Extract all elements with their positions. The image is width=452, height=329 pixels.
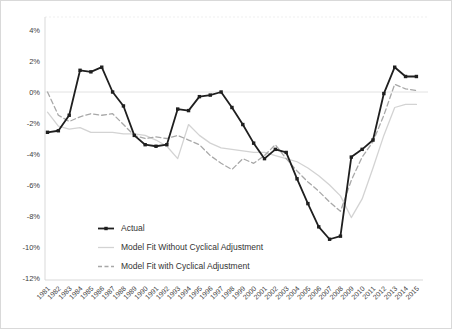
chart-legend: Actual Model Fit Without Cyclical Adjust…	[98, 219, 263, 276]
data-point-marker	[219, 90, 222, 93]
data-point-marker	[176, 107, 179, 110]
data-point-marker	[263, 157, 266, 160]
actual-line-sample	[98, 224, 114, 233]
data-point-marker	[328, 238, 331, 241]
data-point-marker	[404, 75, 407, 78]
legend-sample-marker	[104, 227, 107, 230]
data-point-marker	[154, 145, 157, 148]
series-line-0	[48, 67, 417, 239]
data-point-marker	[89, 70, 92, 73]
data-point-marker	[230, 106, 233, 109]
data-point-marker	[285, 151, 288, 154]
data-point-marker	[371, 138, 374, 141]
y-tick-label: -8%	[27, 212, 41, 221]
legend-item-model-with-adjustment: Model Fit with Cyclical Adjustment	[98, 257, 263, 276]
y-axis-labels: 4%2%0%-2%-4%-6%-8%-10%-12%	[22, 26, 40, 283]
legend-label-model-without-adjustment: Model Fit Without Cyclical Adjustment	[121, 243, 263, 252]
legend-item-model-without-adjustment: Model Fit Without Cyclical Adjustment	[98, 238, 263, 257]
data-point-marker	[143, 143, 146, 146]
data-point-marker	[68, 114, 71, 117]
legend-item-actual: Actual	[98, 219, 263, 238]
data-point-marker	[382, 92, 385, 95]
data-point-marker	[393, 66, 396, 69]
data-point-marker	[360, 148, 363, 151]
y-tick-label: -4%	[27, 150, 41, 159]
data-point-marker	[133, 134, 136, 137]
data-point-marker	[317, 225, 320, 228]
data-point-marker	[46, 131, 49, 134]
data-point-marker	[111, 90, 114, 93]
x-axis-labels: 1981198219831984198519861987198819891990…	[35, 285, 420, 301]
y-tick-label: 0%	[29, 88, 40, 97]
data-point-marker	[187, 109, 190, 112]
data-point-marker	[209, 93, 212, 96]
legend-label-actual: Actual	[121, 224, 145, 233]
data-point-marker	[100, 66, 103, 69]
data-point-marker	[165, 143, 168, 146]
y-tick-label: 4%	[29, 26, 40, 35]
line-chart-canvas: 4%2%0%-2%-4%-6%-8%-10%-12%19811982198319…	[1, 1, 451, 328]
data-point-marker	[122, 104, 125, 107]
y-tick-label: 2%	[29, 57, 40, 66]
data-point-marker	[415, 75, 418, 78]
y-tick-label: -6%	[27, 181, 41, 190]
data-point-marker	[57, 129, 60, 132]
model-with-adjustment-line-sample	[98, 262, 114, 271]
data-point-marker	[241, 123, 244, 126]
y-tick-label: -10%	[22, 243, 40, 252]
legend-label-model-with-adjustment: Model Fit with Cyclical Adjustment	[121, 262, 250, 271]
data-point-marker	[339, 234, 342, 237]
y-tick-label: -12%	[22, 274, 40, 283]
y-tick-label: -2%	[27, 119, 41, 128]
data-point-marker	[78, 69, 81, 72]
data-point-marker	[274, 148, 277, 151]
data-point-marker	[295, 177, 298, 180]
data-point-marker	[306, 202, 309, 205]
data-point-marker	[198, 95, 201, 98]
line-chart-frame: 4%2%0%-2%-4%-6%-8%-10%-12%19811982198319…	[0, 0, 452, 329]
data-point-marker	[252, 141, 255, 144]
data-point-marker	[350, 155, 353, 158]
series-line-1	[48, 104, 417, 217]
model-without-adjustment-line-sample	[98, 243, 114, 252]
